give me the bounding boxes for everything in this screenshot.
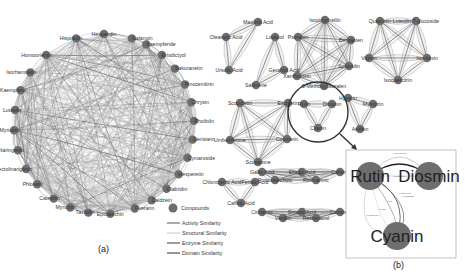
similarity-edge — [256, 37, 275, 85]
compound-label: Hispidulin — [60, 35, 83, 41]
compound-label: Scopoletin — [228, 100, 252, 106]
similarity-edge — [275, 37, 284, 70]
compound-label: Daidzein — [152, 197, 172, 203]
compound-label: Hesperetin — [179, 171, 204, 177]
compound-label: Vitexin — [361, 55, 377, 61]
legend-enzyme-label: Enzyme Similarity — [182, 240, 224, 246]
legend: Compounds Activity Similarity Structural… — [167, 204, 227, 257]
compound-label: Cyanin — [310, 125, 326, 131]
compound-label: Chrysin — [191, 99, 209, 105]
compound-label: Galangin — [132, 35, 153, 41]
legend-activity-label: Activity Similarity — [182, 220, 221, 226]
compound-label: Bergapten — [339, 37, 363, 43]
legend-structural-label: Structural Similarity — [182, 230, 227, 236]
compound-label: Glabridin — [167, 186, 188, 192]
legend-domain-label: Domain Similarity — [182, 250, 223, 256]
compound-label: Sphondin — [338, 63, 360, 69]
compound-label: Cinnamic — [251, 209, 273, 215]
compound-label: Maslinic Acid — [243, 19, 273, 25]
compound-label: Pinocembrin — [185, 81, 214, 87]
compound-label: Psoralen — [288, 34, 309, 40]
compound-label: Luteolin — [3, 107, 21, 113]
compound-label: Oleanolic Acid — [210, 34, 243, 40]
similarity-edge — [258, 103, 288, 162]
edge-weight-label: 0.8785785 — [402, 195, 414, 198]
compound-label: Caffeic Acid — [227, 200, 254, 206]
compound-label: Isoquercitrin — [384, 77, 412, 83]
compound-label: Phloretin — [23, 181, 44, 187]
compound-label: Ursolic Acid — [215, 67, 242, 73]
compound-label: Rhoifolin — [194, 118, 214, 124]
compound-label: Umbelliferone — [214, 137, 246, 143]
compound-label: Esculetin — [277, 100, 298, 106]
highlight-circle — [288, 82, 348, 142]
compound-label: Quercetin — [369, 18, 392, 24]
compound-label-large: Cyanin — [371, 227, 424, 246]
compound-label: Linalool — [266, 34, 284, 40]
compound-label: Isovitexin — [416, 55, 438, 61]
compound-label: Rutin — [298, 101, 310, 107]
compound-label: Ellagic Acid — [289, 169, 316, 175]
compound-label: Xanthotoxin — [283, 73, 311, 79]
figure-canvas: HesperidinHispidulinGalanginKaempferideE… — [0, 0, 471, 274]
compound-label: Diosmin — [323, 101, 342, 107]
compound-label: Catechin — [39, 195, 60, 201]
compound-label: Gallic Acid — [250, 169, 274, 175]
compound-label: Protocatechuic — [258, 177, 293, 183]
edge-weight-label: 0.51 — [388, 200, 393, 203]
legend-compounds-label: Compounds — [181, 205, 209, 211]
compound-label: Scoparone — [245, 159, 270, 165]
compound-label: Chlorogenic Acid — [203, 179, 242, 185]
compound-label: Myricitrin — [363, 101, 384, 107]
compound-label: Vanillin — [275, 215, 291, 221]
legend-compound-node-icon — [169, 204, 178, 213]
compound-label: Resveratrol — [303, 215, 330, 221]
panel-b-label: (b) — [393, 260, 404, 270]
compound-label: Kaempferide — [146, 41, 176, 47]
compound-label: Coumarin — [276, 136, 299, 142]
compound-label: Luteolin-7-glucoside — [393, 18, 440, 24]
compound-label: Myricetin — [0, 127, 20, 133]
panel-b-network: Maslinic AcidOleanolic AcidUrsolic AcidL… — [203, 16, 460, 270]
compound-label: Isorhamnetin — [6, 69, 36, 75]
edge-weight-label: 0.86984417 — [393, 152, 407, 155]
similarity-edge — [229, 22, 258, 70]
edge-weight-label: 0.06597394 — [366, 214, 380, 217]
compound-label: Hesperidin — [92, 31, 117, 37]
compound-label: Eriodictyol — [162, 52, 186, 58]
compound-label: Homoorientin — [21, 52, 52, 58]
compound-label: Naringenin — [0, 147, 24, 153]
compound-label: Isopimpinellin — [309, 17, 341, 23]
compound-label: Hyperin — [339, 95, 357, 101]
compound-label: Genistein — [193, 136, 215, 142]
compound-label: Kaempferol — [0, 87, 27, 93]
compound-label: Sabinene — [245, 82, 267, 88]
compound-label: Rosmarinic — [303, 177, 329, 183]
compound-label-large: Diosmin — [398, 167, 459, 186]
compound-label-large: Rutin — [350, 167, 390, 186]
compound-label: Cymaroside — [187, 155, 215, 161]
compound-label: Astilbin — [352, 126, 369, 132]
compound-label: Taxifolin — [76, 209, 95, 215]
compound-label: Puerarin — [135, 205, 155, 211]
compound-label: Pectolinarigenin — [0, 166, 32, 172]
compound-label: Sakuranetin — [175, 65, 203, 71]
inset-zoom: 0.869844170.603057040.56544420.510.06597… — [346, 150, 460, 258]
compound-label: Epicatechin — [97, 211, 124, 217]
compound-label: Myricitrin — [56, 204, 77, 210]
edge-weight-label: 0.4955 — [378, 208, 386, 211]
panel-a-label: (a) — [98, 244, 109, 254]
zoom-arrow-icon — [340, 134, 355, 148]
